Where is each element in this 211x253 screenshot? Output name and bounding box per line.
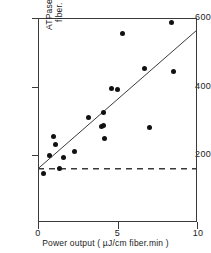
scatter-plot-figure: 600 400 200 0 5 10 Power output ( µJ/cm … — [0, 0, 211, 253]
fitted-regression-line — [38, 30, 197, 169]
chart-lines-layer — [0, 0, 211, 253]
